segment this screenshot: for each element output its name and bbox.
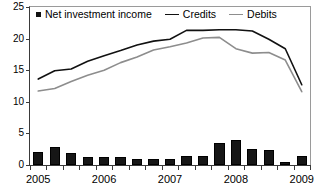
- y-axis-tick-label: 10: [0, 97, 30, 107]
- legend-label-debits: Debits: [247, 9, 277, 20]
- line-debits: [38, 37, 302, 91]
- x-axis-tick-mark: [310, 165, 311, 170]
- y-axis-tick-label: 15: [0, 65, 30, 75]
- x-axis-tick-mark: [162, 165, 163, 170]
- x-axis-tick-mark: [63, 165, 64, 170]
- x-axis-tick-mark: [195, 165, 196, 170]
- legend-label-net-investment-income: Net investment income: [45, 9, 152, 20]
- legend-item-credits: Credits: [165, 9, 216, 20]
- line-marker-gray-icon: [229, 14, 243, 15]
- x-axis-tick-label: 2007: [158, 173, 182, 185]
- y-axis-tick-label: 25: [0, 2, 30, 12]
- x-axis-tick-label: 2008: [224, 173, 248, 185]
- x-axis-tick-mark: [30, 165, 31, 170]
- legend-item-net-investment-income: Net investment income: [36, 9, 152, 20]
- net-investment-income-chart: 051015202520052006200720082009 Net inves…: [0, 0, 321, 193]
- x-axis-tick-mark: [46, 165, 47, 170]
- x-axis-tick-mark: [112, 165, 113, 170]
- line-marker-icon: [165, 14, 179, 15]
- chart-legend: Net investment income Credits Debits: [36, 9, 277, 20]
- x-axis-tick-mark: [277, 165, 278, 170]
- x-axis-tick-mark: [96, 165, 97, 170]
- plot-inner: 051015202520052006200720082009: [30, 7, 310, 165]
- y-axis-tick-label: 20: [0, 34, 30, 44]
- x-axis-tick-mark: [79, 165, 80, 170]
- x-axis-tick-label: 2009: [290, 173, 314, 185]
- x-axis-tick-label: 2005: [26, 173, 50, 185]
- line-series-layer: [30, 7, 310, 165]
- line-credits: [38, 30, 302, 85]
- legend-label-credits: Credits: [183, 9, 216, 20]
- x-axis-tick-mark: [244, 165, 245, 170]
- x-axis-tick-mark: [145, 165, 146, 170]
- plot-area: 051015202520052006200720082009: [29, 6, 311, 166]
- x-axis-tick-mark: [178, 165, 179, 170]
- x-axis-tick-mark: [294, 165, 295, 170]
- x-axis-tick-label: 2006: [92, 173, 116, 185]
- legend-item-debits: Debits: [229, 9, 277, 20]
- x-axis-tick-mark: [211, 165, 212, 170]
- x-axis-tick-mark: [261, 165, 262, 170]
- y-axis-tick-label: 5: [0, 128, 30, 138]
- y-axis-tick-label: 0: [0, 160, 30, 170]
- x-axis-tick-mark: [228, 165, 229, 170]
- x-axis-tick-mark: [129, 165, 130, 170]
- square-marker-icon: [36, 12, 41, 17]
